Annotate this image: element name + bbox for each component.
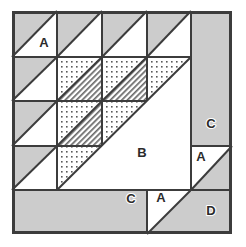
- quilt-block-figure: A B C A C A D: [0, 0, 246, 247]
- label-b-center: B: [137, 145, 146, 160]
- label-a-right: A: [196, 149, 206, 164]
- piece-a-bottom-hst: [147, 190, 191, 234]
- label-c-right: C: [206, 116, 216, 131]
- quilt-block-svg: A B C A C A D: [0, 0, 246, 247]
- unit-r2c3: [102, 57, 147, 101]
- label-a-top-left: A: [39, 35, 49, 50]
- label-d-bottom-right: D: [206, 203, 215, 218]
- label-c-bottom: C: [126, 191, 136, 206]
- unit-r2c2: [57, 57, 102, 101]
- unit-r3c2: [57, 101, 102, 146]
- bottom-strip: [12, 190, 232, 234]
- label-a-bottom: A: [156, 190, 166, 205]
